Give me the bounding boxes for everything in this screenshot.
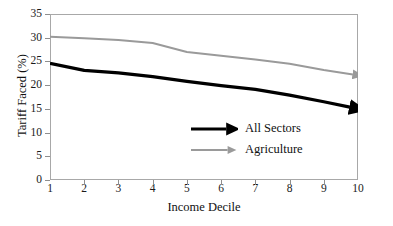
chart-container: 05101520253035 12345678910 Tariff Faced … [0,0,393,226]
legend-item: Agriculture [190,139,303,160]
legend-label: Agriculture [245,142,303,157]
x-axis-tick-mark [84,180,85,185]
legend-arrow-icon [190,122,238,136]
x-axis-tick-mark [255,180,256,185]
y-axis-tick-mark [45,180,50,181]
legend-arrow-icon [190,143,238,157]
x-axis-label: Income Decile [50,200,358,215]
x-axis-tick-mark [290,180,291,185]
x-axis-tick-mark [153,180,154,185]
x-axis-tick-mark [324,180,325,185]
y-axis-label: Tariff Faced (%) [15,11,30,181]
series-line-agriculture [50,37,353,75]
x-axis-tick-mark [221,180,222,185]
x-axis-tick-mark [187,180,188,185]
series-line-all-sectors [50,63,350,107]
x-axis-tick-mark [118,180,119,185]
legend-label: All Sectors [245,121,301,136]
x-axis-tick-label: 1 [38,183,62,195]
legend-item: All Sectors [190,118,303,139]
x-axis-tick-label: 10 [346,183,370,195]
chart-legend: All SectorsAgriculture [190,118,303,160]
